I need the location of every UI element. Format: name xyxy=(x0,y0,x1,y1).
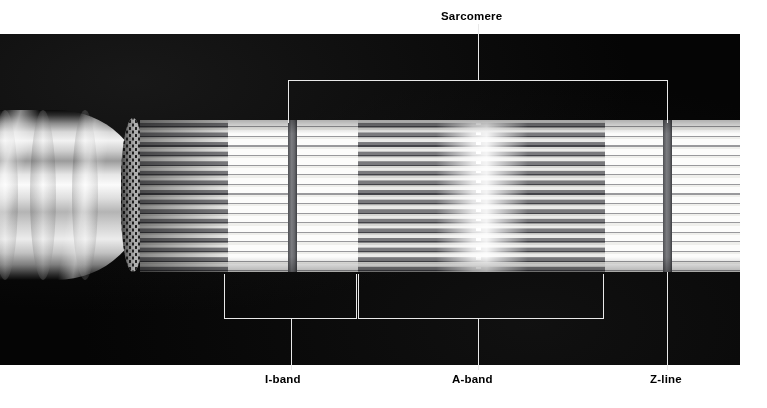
i-band-region xyxy=(605,120,663,272)
sarcomere-leader-line xyxy=(478,24,479,81)
myofibril-slab xyxy=(140,120,740,272)
i-band-bracket-left xyxy=(224,274,225,319)
a-band-region xyxy=(140,120,228,272)
a-band-bracket-right xyxy=(603,274,604,319)
a-band-bracket-bottom xyxy=(358,318,604,319)
i-band-region xyxy=(296,120,358,272)
h-zone xyxy=(436,120,528,272)
i-band-region xyxy=(672,120,740,272)
i-band-label: I-band xyxy=(265,373,301,385)
i-band-bracket-right xyxy=(356,274,357,319)
z-line-band xyxy=(288,120,297,272)
z-line-label: Z-line xyxy=(650,373,682,385)
figure-canvas: Sarcomere I-band A-band Z-line xyxy=(0,0,767,408)
m-line xyxy=(476,120,481,272)
i-band-leader-line xyxy=(291,318,292,370)
sarcomere-bracket-right xyxy=(667,80,668,123)
sarcomere-bracket-left xyxy=(288,80,289,123)
i-band-region xyxy=(228,120,292,272)
a-band-leader-line xyxy=(478,318,479,370)
a-band-bracket-left xyxy=(358,274,359,319)
z-line-band xyxy=(663,120,672,272)
a-band-label: A-band xyxy=(452,373,493,385)
sarcomere-label: Sarcomere xyxy=(441,10,502,22)
z-line-leader-line xyxy=(667,272,668,370)
